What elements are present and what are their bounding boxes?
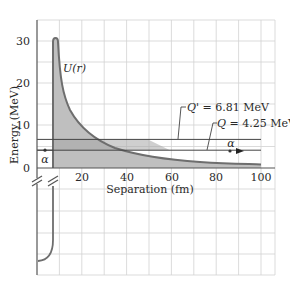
y-tick-30: 30 xyxy=(16,35,30,48)
x-tick-80: 80 xyxy=(209,171,223,184)
q-prime-annotation: Q' = 6.81 MeV xyxy=(187,101,270,114)
q-leader xyxy=(207,123,217,150)
alpha-particle-inside-icon xyxy=(43,149,46,152)
x-tick-100: 100 xyxy=(251,171,272,184)
alpha-outside-label: α xyxy=(227,137,235,150)
alpha-decay-potential-chart: 30 20 10 0 20 40 60 80 100 Separation (f… xyxy=(0,0,290,288)
y-tick-0: 0 xyxy=(23,162,30,175)
alpha-inside-label: α xyxy=(41,153,49,166)
x-axis-label: Separation (fm) xyxy=(106,183,194,196)
axis-break-icon xyxy=(32,176,58,186)
q-annotation: Q = 4.25 MeV xyxy=(217,117,290,130)
curve-label: U(r) xyxy=(63,62,86,75)
q-band xyxy=(53,139,170,150)
q-prime-leader xyxy=(178,107,186,139)
y-axis-label: Energy (MeV) xyxy=(8,86,21,164)
nuclear-well xyxy=(38,186,53,261)
x-tick-20: 20 xyxy=(75,171,89,184)
arrow-right-icon xyxy=(236,148,244,154)
